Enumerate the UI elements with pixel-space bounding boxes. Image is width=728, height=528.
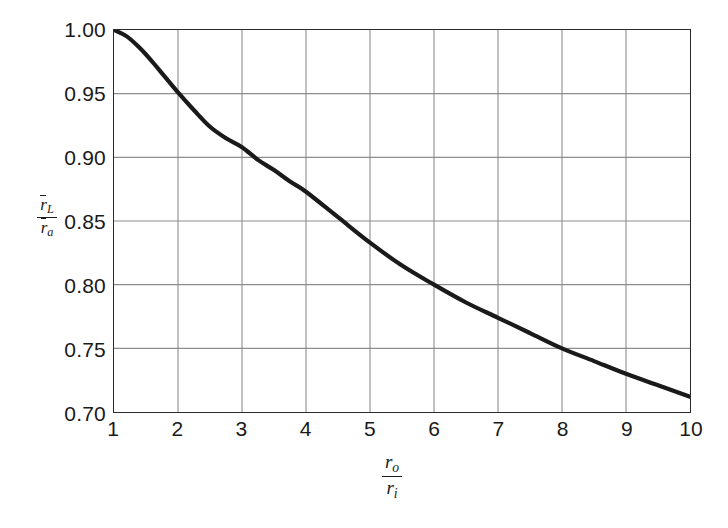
- x-axis-denominator: ri: [382, 476, 402, 501]
- x-axis-numerator: ro: [382, 452, 402, 476]
- r-bar-symbol-y-num: r: [40, 196, 47, 214]
- y-axis-denominator: ra: [37, 217, 56, 239]
- data-curve: [114, 30, 690, 412]
- x-axis-tick-label: 6: [428, 418, 440, 439]
- y-axis-tick-label: 0.80: [10, 275, 106, 296]
- y-axis-tick-label: 1.00: [10, 19, 106, 40]
- x-axis-tick-label: 4: [300, 418, 312, 439]
- r-symbol-x-den: r: [386, 477, 393, 498]
- plot-area: [113, 29, 691, 413]
- r-bar-symbol-y-den: r: [41, 219, 48, 237]
- y-axis-numerator-subscript: L: [47, 202, 54, 216]
- x-axis-tick-label: 8: [557, 418, 569, 439]
- y-axis-tick-label: 0.90: [10, 147, 106, 168]
- y-axis-tick-label: 0.75: [10, 339, 106, 360]
- x-axis-numerator-subscript: o: [392, 460, 399, 475]
- x-axis-tick-label: 9: [621, 418, 633, 439]
- x-axis-tick-label: 2: [171, 418, 183, 439]
- y-axis-numerator: rL: [37, 196, 56, 217]
- x-axis-title: ro ri: [364, 452, 420, 501]
- x-axis-tick-label: 5: [364, 418, 376, 439]
- y-axis-tick-label: 0.95: [10, 83, 106, 104]
- y-axis-denominator-subscript: a: [47, 226, 53, 240]
- y-axis-title: rL ra: [24, 196, 70, 240]
- y-axis-fraction: rL ra: [37, 196, 56, 240]
- x-axis-tick-label: 10: [679, 418, 702, 439]
- x-axis-tick-labels: 12345678910: [113, 418, 691, 450]
- x-axis-tick-label: 1: [107, 418, 119, 439]
- x-axis-tick-label: 3: [236, 418, 248, 439]
- x-axis-tick-label: 7: [492, 418, 504, 439]
- x-axis-fraction: ro ri: [382, 452, 402, 501]
- chart-figure: 1.000.950.900.850.800.750.70 12345678910…: [0, 0, 728, 528]
- series-line: [114, 30, 690, 397]
- x-axis-denominator-subscript: i: [394, 486, 398, 501]
- y-axis-tick-label: 0.70: [10, 403, 106, 424]
